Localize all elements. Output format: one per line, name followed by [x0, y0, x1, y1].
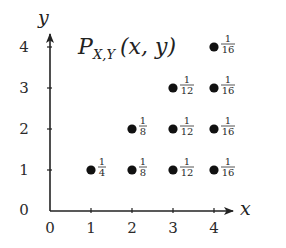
fraction-denominator: 16 — [222, 126, 235, 137]
x-axis-label: x — [240, 197, 251, 219]
data-point: 116 — [209, 115, 235, 137]
fraction-numerator: 1 — [225, 156, 231, 167]
fraction-denominator: 4 — [99, 167, 105, 178]
fraction-denominator: 8 — [140, 167, 146, 178]
fraction-denominator: 12 — [181, 126, 194, 137]
point-marker — [209, 124, 218, 133]
data-point: 14 — [86, 156, 106, 178]
fraction-numerator: 1 — [184, 74, 190, 85]
x-tick-label: 3 — [168, 219, 178, 237]
fraction-numerator: 1 — [140, 115, 146, 126]
fraction-numerator: 1 — [184, 115, 190, 126]
svg-text:X,Y: X,Y — [92, 47, 116, 62]
data-point: 116 — [209, 74, 235, 96]
data-point: 112 — [168, 115, 194, 137]
svg-text:(x, y): (x, y) — [120, 34, 176, 59]
fraction-numerator: 1 — [225, 115, 231, 126]
fraction-numerator: 1 — [225, 33, 231, 44]
data-point: 18 — [127, 156, 147, 178]
y-tick-label: 4 — [19, 38, 29, 56]
fraction-denominator: 16 — [222, 44, 235, 55]
point-marker — [209, 83, 218, 92]
y-tick-label: 3 — [19, 79, 29, 97]
point-marker — [209, 42, 218, 51]
data-point: 112 — [168, 74, 194, 96]
fraction-numerator: 1 — [184, 156, 190, 167]
fraction-numerator: 1 — [99, 156, 105, 167]
x-tick-label: 2 — [127, 219, 137, 237]
y-tick-label: 0 — [19, 201, 29, 219]
point-marker — [209, 165, 218, 174]
fraction-denominator: 16 — [222, 85, 235, 96]
fraction-denominator: 12 — [181, 85, 194, 96]
x-tick-label: 4 — [209, 219, 219, 237]
y-axis-label: y — [37, 6, 49, 28]
point-marker — [168, 165, 177, 174]
chart-title: P X,Y (x, y) — [77, 34, 176, 62]
svg-text:P: P — [77, 34, 94, 59]
fraction-denominator: 8 — [140, 126, 146, 137]
data-point: 112 — [168, 156, 194, 178]
y-tick-label: 1 — [19, 161, 29, 179]
data-point: 116 — [209, 33, 235, 55]
data-point: 116 — [209, 156, 235, 178]
x-tick-label: 1 — [86, 219, 96, 237]
point-marker — [127, 124, 136, 133]
point-marker — [86, 165, 95, 174]
data-point: 18 — [127, 115, 147, 137]
pmf-chart: 0 1 2 3 4 0 1 2 3 4 x y P X,Y (x, y) 141… — [0, 0, 286, 248]
point-marker — [168, 83, 177, 92]
fraction-denominator: 16 — [222, 167, 235, 178]
x-tick-label: 0 — [45, 219, 55, 237]
point-marker — [127, 165, 136, 174]
fraction-denominator: 12 — [181, 167, 194, 178]
point-marker — [168, 124, 177, 133]
y-tick-label: 2 — [19, 120, 29, 138]
fraction-numerator: 1 — [140, 156, 146, 167]
fraction-numerator: 1 — [225, 74, 231, 85]
